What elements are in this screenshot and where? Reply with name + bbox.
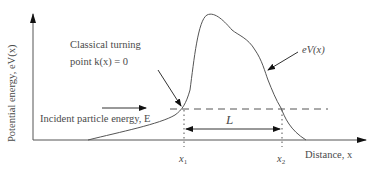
curve-label: eV(x) [302, 44, 325, 56]
x1-label: x1 [178, 153, 188, 166]
turning-point-label-line1: Classical turning [70, 39, 142, 50]
turning-point-pointer [158, 70, 181, 106]
y-axis-label: Potential energy, eV(x) [6, 44, 18, 142]
x2-label: x2 [276, 153, 286, 166]
incident-energy-label: Incident particle energy, E [40, 113, 151, 124]
tunneling-barrier-diagram: Potential energy, eV(x) Distance, x L In… [0, 0, 380, 172]
x-axis-label: Distance, x [305, 149, 353, 160]
barrier-width-label: L [225, 112, 233, 127]
turning-point-label-line2: point k(x) = 0 [70, 56, 128, 68]
curve-pointer [268, 52, 298, 70]
